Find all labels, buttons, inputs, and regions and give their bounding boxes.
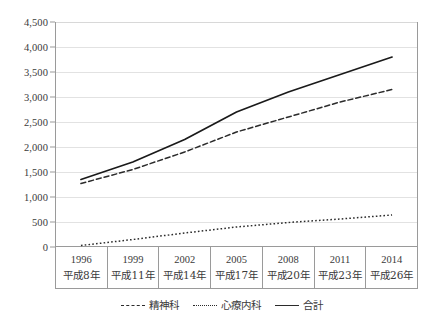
x-axis-year-label: 1996: [71, 253, 92, 267]
x-axis-category: 2011平成23年: [315, 247, 367, 288]
legend-item[interactable]: 精神科: [121, 297, 179, 312]
chart-legend: 精神科心療内科合計: [0, 297, 443, 312]
y-axis-tick-label: 2,000: [24, 142, 48, 153]
x-axis-year-label: 2014: [381, 253, 402, 267]
legend-line-swatch-icon: [275, 301, 299, 309]
y-axis-tick-label: 2,500: [24, 117, 48, 128]
series-line: [81, 215, 392, 246]
x-axis-era-label: 平成23年: [318, 268, 361, 282]
x-axis-category: 1996平成8年: [56, 247, 108, 288]
x-axis-era-label: 平成8年: [63, 268, 100, 282]
x-axis-category: 2008平成20年: [263, 247, 315, 288]
series-line: [81, 90, 392, 184]
legend-label: 合計: [303, 297, 323, 312]
legend-line-swatch-icon: [193, 301, 217, 309]
y-axis-tick-label: 4,500: [24, 17, 48, 28]
y-axis: 05001,0001,5002,0002,5003,0003,5004,0004…: [0, 22, 55, 247]
y-axis-tick-label: 1,000: [24, 192, 48, 203]
legend-label: 心療内科: [221, 297, 261, 312]
x-axis-category: 2002平成14年: [159, 247, 211, 288]
legend-label: 精神科: [149, 297, 179, 312]
y-axis-tick-label: 4,000: [24, 42, 48, 53]
x-axis-year-label: 1999: [123, 253, 144, 267]
x-axis-category: 2005平成17年: [211, 247, 263, 288]
x-axis-era-label: 平成20年: [267, 268, 310, 282]
y-axis-tick-label: 0: [43, 242, 48, 253]
series-layer: [55, 22, 418, 247]
x-axis-era-label: 平成11年: [111, 268, 154, 282]
x-axis-year-label: 2011: [330, 253, 351, 267]
series-line: [81, 57, 392, 180]
x-axis-year-label: 2008: [278, 253, 299, 267]
x-axis-category: 1999平成11年: [108, 247, 160, 288]
x-axis-era-label: 平成14年: [163, 268, 206, 282]
y-axis-tick-label: 3,500: [24, 67, 48, 78]
x-axis-era-label: 平成26年: [370, 268, 413, 282]
legend-item[interactable]: 心療内科: [193, 297, 261, 312]
legend-line-swatch-icon: [121, 301, 145, 309]
x-axis-year-label: 2002: [174, 253, 195, 267]
y-axis-tick-label: 3,000: [24, 92, 48, 103]
x-axis: 1996平成8年1999平成11年2002平成14年2005平成17年2008平…: [55, 247, 418, 289]
x-axis-year-label: 2005: [226, 253, 247, 267]
x-axis-category: 2014平成26年: [366, 247, 417, 288]
legend-item[interactable]: 合計: [275, 297, 323, 312]
x-axis-era-label: 平成17年: [215, 268, 258, 282]
line-chart: 05001,0001,5002,0002,5003,0003,5004,0004…: [0, 0, 443, 326]
y-axis-tick-label: 500: [32, 217, 48, 228]
y-axis-tick-label: 1,500: [24, 167, 48, 178]
